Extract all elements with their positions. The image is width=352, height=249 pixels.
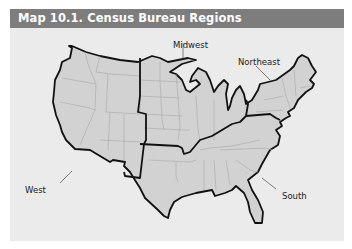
map-figure: Map 10.1. Census Bureau Regions — [10, 9, 344, 241]
region-label-midwest: Midwest — [173, 40, 208, 50]
region-label-west: West — [25, 185, 46, 195]
south-leader — [262, 178, 276, 189]
region-label-south: South — [282, 191, 307, 201]
northeast-leader — [256, 66, 270, 80]
us-landmass — [53, 46, 316, 223]
west-leader — [60, 171, 72, 183]
region-label-northeast: Northeast — [238, 57, 280, 67]
